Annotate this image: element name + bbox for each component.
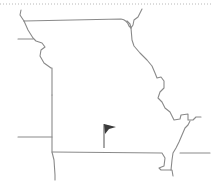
west-border <box>52 95 55 180</box>
state-map <box>0 0 222 190</box>
east-river <box>131 28 201 120</box>
south-border <box>52 152 173 176</box>
flag-icon[interactable] <box>104 124 116 148</box>
north-border <box>24 19 131 28</box>
southeast-river <box>171 121 190 170</box>
northwest-border <box>20 10 24 21</box>
flag-cloth <box>104 124 116 134</box>
west-river <box>24 21 52 95</box>
